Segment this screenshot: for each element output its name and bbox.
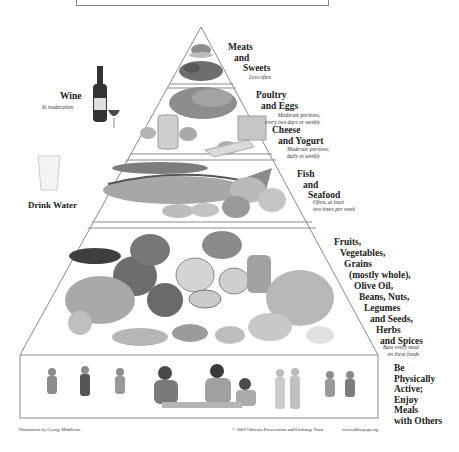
- tier-note-cheese-yogurt: Moderate portions, daily to weekly: [287, 146, 329, 159]
- tier-note-plant-foods: Base every meal on these foods: [383, 344, 419, 357]
- wine-note: In moderation: [42, 104, 73, 111]
- fish-seafood-illustration: [103, 162, 286, 218]
- plant-foods-illustration: [65, 231, 334, 346]
- website-link[interactable]: www.oldwayspt.org: [342, 427, 378, 432]
- tier-note-meats-sweets: Less often: [249, 74, 271, 81]
- tier-label-plant-foods: Fruits, Vegetables, Grains (mostly whole…: [334, 237, 423, 347]
- tier-note-poultry-eggs: Moderate portions, every two days or wee…: [265, 112, 320, 125]
- activity-illustration: [47, 364, 355, 409]
- wine-illustration: [93, 66, 120, 128]
- tier-label-poultry-eggs: Poultry and Eggs: [256, 90, 298, 111]
- tier-label-cheese-yogurt: Cheese and Yogurt: [272, 125, 323, 146]
- tier-label-activity: Be Physically Active; Enjoy Meals with O…: [394, 363, 442, 426]
- poultry-cheese-illustration: [140, 87, 266, 157]
- illustration-credit: Illustrations by George Middleton: [19, 427, 80, 432]
- tier-label-meats-sweets: Meats and Sweets: [228, 42, 270, 74]
- tier-label-fish-seafood: Fish and Seafood: [297, 169, 340, 201]
- copyright: © 2009 Oldways Preservation and Exchange…: [232, 427, 323, 432]
- wine-label: Wine: [60, 91, 81, 102]
- water-label: Drink Water: [28, 200, 77, 211]
- meats-sweets-illustration: [179, 44, 223, 81]
- water-glass-illustration: [38, 156, 60, 190]
- tier-note-fish-seafood: Often, at least two times per week: [313, 199, 355, 212]
